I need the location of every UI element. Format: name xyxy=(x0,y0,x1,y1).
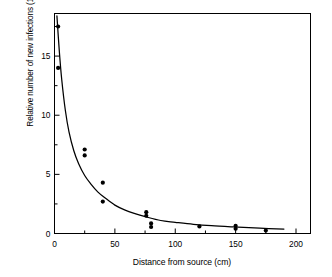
data-point xyxy=(101,199,105,203)
plot-frame xyxy=(55,14,311,234)
data-point xyxy=(197,224,201,228)
data-point xyxy=(144,214,148,218)
y-axis-label-text: Relative number of new infections (10 xyxy=(26,0,35,127)
x-axis-tick-labels: 050100150200 xyxy=(52,239,303,249)
y-axis-ticks xyxy=(55,27,60,234)
data-point xyxy=(149,225,153,229)
data-point xyxy=(83,147,87,151)
x-tick-label: 150 xyxy=(229,239,243,249)
x-axis-label: Distance from source (cm) xyxy=(54,257,310,267)
data-point xyxy=(83,153,87,157)
y-tick-label: 0 xyxy=(46,229,51,239)
data-points xyxy=(56,24,268,232)
y-tick-label: 5 xyxy=(46,169,51,179)
y-tick-label: 15 xyxy=(41,51,51,61)
figure-container: 050100150200 051015 Relative number of n… xyxy=(0,0,332,277)
fit-curve xyxy=(57,16,284,229)
x-tick-label: 100 xyxy=(168,239,182,249)
x-tick-label: 0 xyxy=(52,239,57,249)
x-tick-label: 200 xyxy=(289,239,303,249)
data-point xyxy=(56,66,60,70)
y-tick-label: 10 xyxy=(41,110,51,120)
data-point xyxy=(234,227,238,231)
data-point xyxy=(56,24,60,28)
data-point xyxy=(101,181,105,185)
y-axis-label: Relative number of new infections (10−3) xyxy=(25,0,36,155)
x-axis-ticks xyxy=(55,229,297,234)
x-tick-label: 50 xyxy=(110,239,120,249)
chart-canvas: 050100150200 051015 xyxy=(0,0,332,277)
y-axis-tick-labels: 051015 xyxy=(41,51,51,238)
data-point xyxy=(264,228,268,232)
